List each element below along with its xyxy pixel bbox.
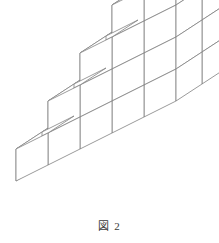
cube-faces-group (16, 0, 219, 181)
figure-container: 図 2 (0, 0, 219, 243)
figure-caption: 図 2 (0, 220, 219, 233)
isometric-cube-stack-diagram (0, 0, 219, 215)
